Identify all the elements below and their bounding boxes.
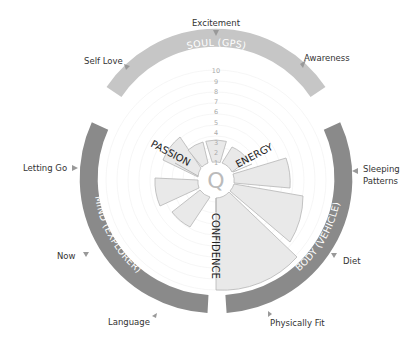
- label-self-love: Self Love: [84, 56, 123, 66]
- scale-4: 4: [214, 129, 218, 137]
- scale-1: 1: [214, 159, 218, 167]
- marker-diet-icon: [331, 253, 337, 258]
- quality-of-life-wheel: 1 2 3 4 5 6 7 8 9 10 Q PASSION ENERGY CO…: [0, 0, 420, 342]
- label-language: Language: [108, 317, 150, 327]
- label-sleeping: Sleeping: [363, 164, 400, 174]
- ring-label-soul: SOUL (GPS): [186, 37, 248, 51]
- scale-3: 3: [214, 139, 218, 147]
- axis-confidence: CONFIDENCE: [210, 213, 221, 279]
- marker-language-icon: [152, 313, 157, 318]
- center-q-logo: Q: [207, 168, 224, 193]
- marker-physically-fit-icon: [268, 311, 272, 317]
- label-letting-go: Letting Go: [23, 163, 67, 173]
- scale-2: 2: [214, 149, 218, 157]
- scale-7: 7: [214, 98, 218, 106]
- scale-5: 5: [214, 119, 218, 127]
- label-awareness: Awareness: [304, 53, 350, 63]
- marker-sleeping-icon: [352, 168, 358, 174]
- label-excitement: Excitement: [192, 18, 241, 28]
- label-diet: Diet: [343, 256, 361, 266]
- label-patterns: Patterns: [363, 176, 399, 186]
- scale-10: 10: [212, 67, 220, 75]
- marker-now-icon: [83, 252, 89, 257]
- scale-6: 6: [214, 108, 218, 116]
- label-physically-fit: Physically Fit: [270, 318, 325, 328]
- label-now: Now: [57, 251, 76, 261]
- marker-letting-go-icon: [72, 165, 78, 171]
- scale-8: 8: [214, 88, 218, 96]
- scale-9: 9: [214, 78, 218, 86]
